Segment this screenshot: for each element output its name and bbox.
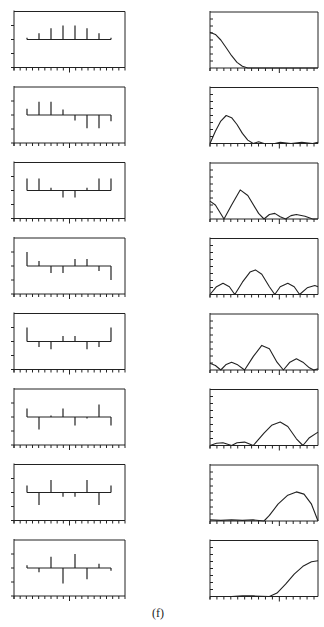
stem-panel — [11, 86, 125, 148]
stem-panel — [11, 388, 125, 450]
stem-panel — [11, 539, 125, 601]
response-panel — [210, 389, 318, 451]
response-panel — [210, 162, 318, 224]
figure-caption: (f) — [152, 606, 164, 621]
figure-grid — [0, 0, 324, 627]
response-panel — [210, 87, 318, 149]
stem-panel — [11, 11, 125, 73]
stem-panel — [11, 162, 125, 224]
stem-panel — [11, 313, 125, 375]
response-panel — [210, 11, 318, 73]
stem-panel — [11, 464, 125, 526]
stem-panel — [11, 237, 125, 299]
response-panel — [210, 313, 318, 375]
response-panel — [210, 464, 318, 526]
response-panel — [210, 540, 318, 602]
response-panel — [210, 238, 318, 300]
